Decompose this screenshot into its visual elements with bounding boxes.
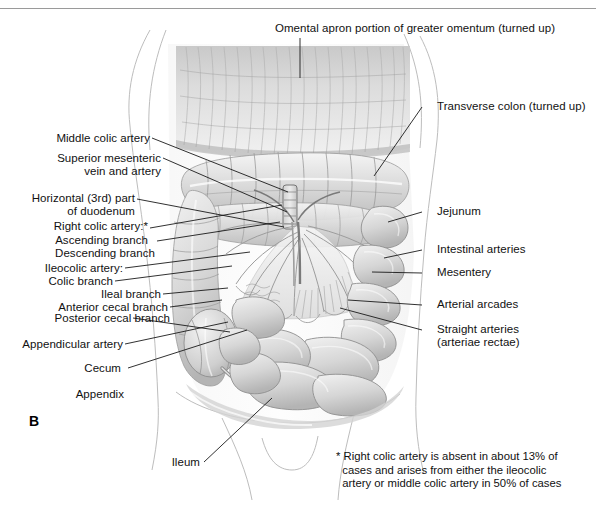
label-jejunum: Jejunum (437, 205, 481, 218)
label-ascending-branch: Ascending branch (0, 234, 148, 247)
label-appendicular-artery: Appendicular artery (0, 338, 123, 351)
figure-canvas: Omental apron portion of greater omentum… (0, 0, 596, 508)
label-omental-apron: Omental apron portion of greater omentum… (275, 22, 555, 35)
label-posterior-cecal-branch: Posterior cecal branch (0, 312, 170, 325)
label-descending-branch: Descending branch (0, 247, 155, 260)
label-arterial-arcades: Arterial arcades (437, 298, 518, 311)
footnote-right-colic-artery: * Right colic artery is absent in about … (336, 450, 586, 491)
label-transverse-colon: Transverse colon (turned up) (437, 100, 586, 113)
label-straight-arteries: Straight arteries (arteriae rectae) (437, 323, 520, 349)
label-mesentery: Mesentery (437, 266, 491, 279)
label-right-colic-artery: Right colic artery:* (0, 220, 148, 233)
label-horizontal-duodenum: Horizontal (3rd) part of duodenum (0, 192, 135, 218)
panel-letter-b: B (29, 413, 39, 429)
label-appendix: Appendix (0, 388, 124, 401)
label-middle-colic-artery: Middle colic artery (0, 132, 150, 145)
label-cecum: Cecum (0, 362, 121, 375)
label-intestinal-arteries: Intestinal arteries (437, 243, 526, 256)
label-ileal-branch: Ileal branch (0, 288, 161, 301)
label-superior-mesenteric-vein-artery: Superior mesenteric vein and artery (0, 152, 161, 178)
label-ileocolic-artery: Ileocolic artery: (0, 262, 123, 275)
label-ileum: Ileum (0, 456, 200, 469)
label-colic-branch: Colic branch (0, 275, 113, 288)
